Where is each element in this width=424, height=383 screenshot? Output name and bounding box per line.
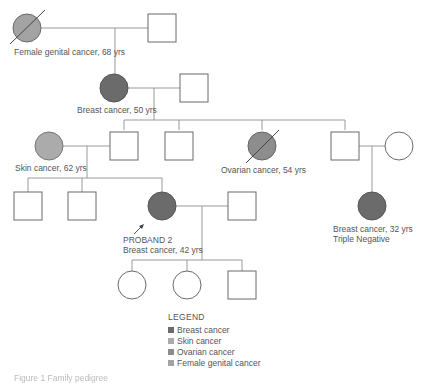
gen3-female-ovarian-cancer[interactable] (246, 130, 279, 163)
gen4-cousin-female-breast-cancer[interactable] (358, 192, 386, 220)
proband-label: Breast cancer, 42 yrs (123, 245, 203, 255)
proband-title: PROBAND 2 (123, 235, 172, 245)
legend-swatch-female-genital (168, 360, 174, 366)
gen5-male[interactable] (228, 271, 256, 299)
proband-spouse-male[interactable] (228, 192, 256, 220)
gen5-female-2[interactable] (173, 271, 201, 299)
gen2-male[interactable] (180, 74, 208, 102)
gen5-female-1[interactable] (118, 271, 146, 299)
figure-caption: Figure 1 Family pedigree (14, 373, 108, 383)
legend-item-ovarian: Ovarian cancer (177, 347, 235, 357)
gen1-female-female-genital-cancer[interactable] (10, 10, 45, 44)
gen4-male-2[interactable] (68, 192, 96, 220)
gen3-male-2[interactable] (165, 132, 193, 160)
legend-title: LEGEND (168, 312, 205, 322)
legend-swatch-breast (168, 327, 174, 333)
cousin-label-1: Breast cancer, 32 yrs (333, 224, 413, 234)
gen1-label: Female genital cancer, 68 yrs (14, 47, 125, 57)
gen3-female-skin-cancer[interactable] (35, 132, 63, 160)
gen3-male-3[interactable] (331, 132, 359, 160)
cousin-label-2: Triple Negative (333, 234, 390, 244)
gen3-male-1[interactable] (110, 132, 138, 160)
gen3-spouse-female[interactable] (385, 132, 413, 160)
legend: LEGEND Breast cancer Skin cancer Ovarian… (168, 312, 261, 368)
legend-swatch-skin (168, 338, 174, 344)
legend-item-skin: Skin cancer (177, 336, 222, 346)
legend-swatch-ovarian (168, 349, 174, 355)
legend-item-breast: Breast cancer (177, 325, 230, 335)
gen3-ovarian-label: Ovarian cancer, 54 yrs (221, 165, 306, 175)
proband-arrow-icon (134, 224, 144, 234)
gen1-male[interactable] (148, 14, 176, 42)
gen2-female-breast-cancer[interactable] (100, 74, 128, 102)
gen4-male-1[interactable] (14, 192, 42, 220)
gen3-skin-label: Skin cancer, 62 yrs (15, 163, 87, 173)
legend-item-female-genital: Female genital cancer (177, 358, 261, 368)
pedigree-chart: Female genital cancer, 68 yrs Breast can… (0, 0, 424, 383)
gen2-label: Breast cancer, 50 yrs (77, 105, 157, 115)
proband-female-breast-cancer[interactable] (148, 192, 176, 220)
